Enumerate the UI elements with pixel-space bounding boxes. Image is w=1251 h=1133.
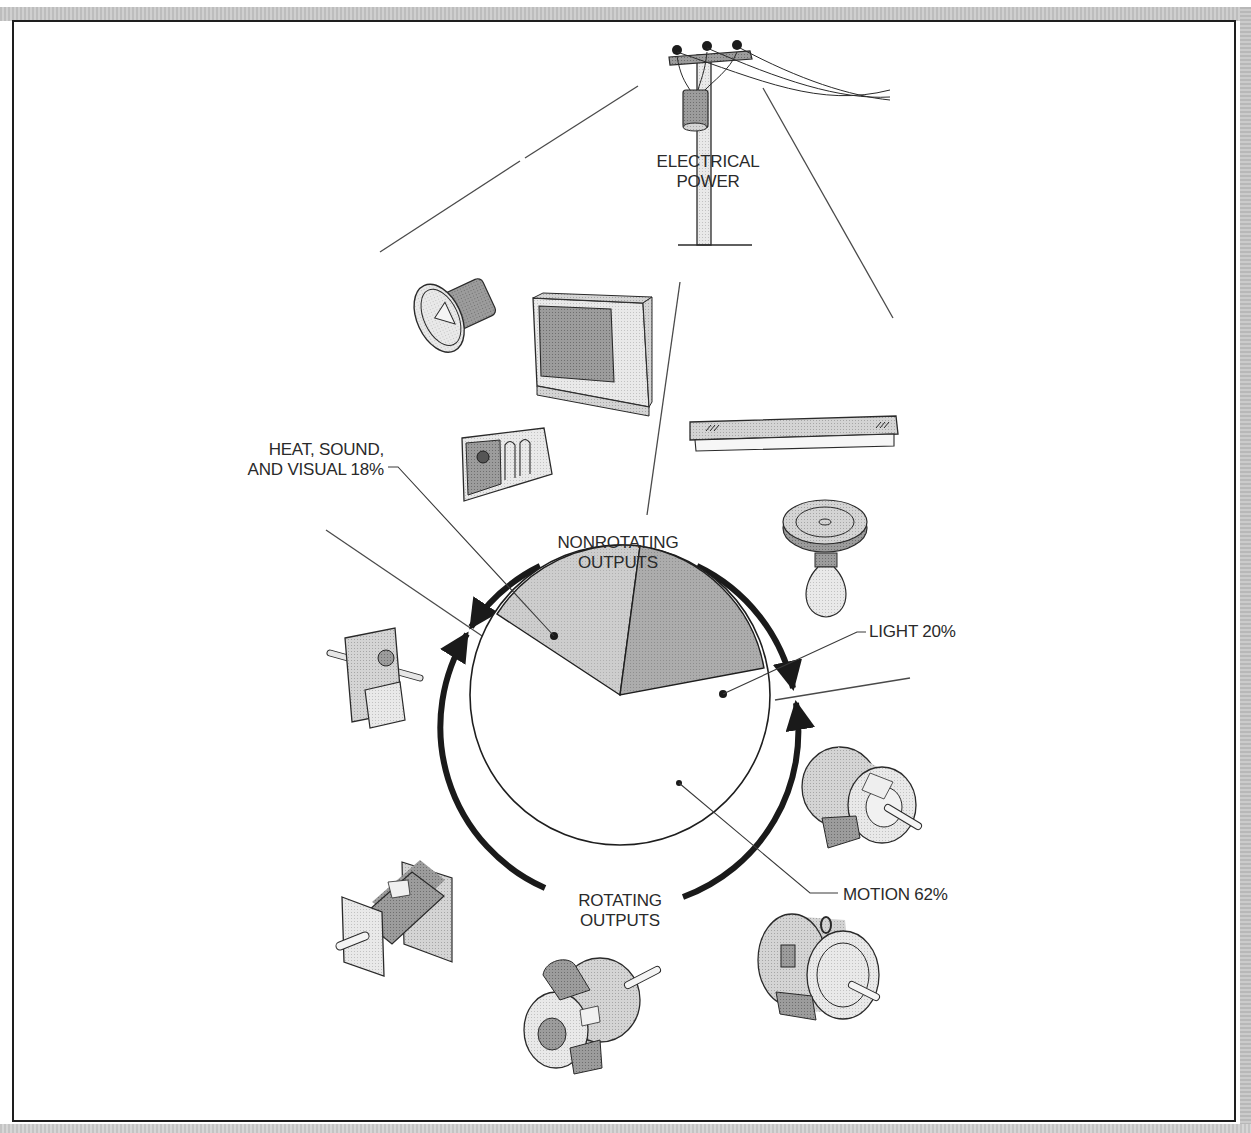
electrical-power-label-line1: ELECTRICAL (648, 152, 768, 172)
electrical-power-label-line2: POWER (648, 172, 768, 192)
capacitor-motor-illustration (524, 958, 657, 1074)
utility-pole-illustration (669, 40, 890, 245)
motion-label: MOTION 62% (843, 885, 948, 905)
divider-line-right (775, 678, 910, 700)
electrical-power-label: ELECTRICAL POWER (648, 152, 768, 192)
television-illustration (533, 293, 652, 416)
nonrotating-outputs-label: NONROTATING OUTPUTS (538, 533, 698, 573)
nonrotating-label-line2: OUTPUTS (538, 553, 698, 573)
heat-sound-visual-label: HEAT, SOUND, AND VISUAL 18% (200, 440, 384, 480)
divider-line-upper-right (763, 88, 893, 318)
heat-label-line2: AND VISUAL 18% (200, 460, 384, 480)
fluorescent-fixture-illustration (690, 416, 898, 451)
rotating-label-line2: OUTPUTS (540, 911, 700, 931)
rotating-label-line1: ROTATING (540, 891, 700, 911)
shaded-pole-motor-illustration (330, 628, 420, 728)
loudspeaker-illustration (404, 262, 504, 360)
nonrotating-label-line1: NONROTATING (538, 533, 698, 553)
ceiling-bulb-illustration (783, 500, 867, 617)
space-heater-illustration (462, 428, 552, 501)
divider-line-upper-left-b (380, 161, 520, 252)
rotating-outputs-label: ROTATING OUTPUTS (540, 891, 700, 931)
light-label: LIGHT 20% (869, 622, 956, 642)
output-pie (470, 545, 770, 845)
dc-motor-illustration (340, 860, 452, 976)
eyebolt-motor-illustration (758, 914, 879, 1020)
divider-line-left (326, 530, 488, 640)
enclosed-motor-illustration (802, 747, 918, 848)
divider-line-upper-left-a (525, 86, 638, 158)
heat-label-line1: HEAT, SOUND, (200, 440, 384, 460)
